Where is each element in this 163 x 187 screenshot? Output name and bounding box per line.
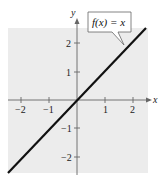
x-axis-arrow-icon: [146, 98, 152, 103]
y-axis-arrow-icon: [75, 18, 80, 24]
x-tick-label: −1: [43, 104, 54, 115]
function-label: f(x) = x: [92, 16, 125, 29]
y-tick-label: 2: [66, 38, 71, 49]
x-tick-label: 2: [130, 104, 135, 115]
x-tick-label: −2: [15, 104, 26, 115]
function-graph: x y −2 −1 1 2 2 1 −1 −2 f(x) = x: [0, 0, 163, 187]
x-axis-label: x: [152, 94, 158, 105]
x-tick-label: 1: [103, 104, 108, 115]
y-tick-label: −2: [61, 152, 72, 163]
y-axis-label: y: [70, 7, 76, 18]
y-tick-label: 1: [66, 67, 71, 78]
y-tick-label: −1: [61, 123, 72, 134]
